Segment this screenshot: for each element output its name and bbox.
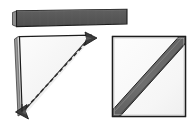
- triangle-face: [20, 35, 92, 113]
- strip-left-edge: [13, 11, 17, 27]
- origami-instruction-diagram: [0, 0, 196, 132]
- strip-body: [17, 9, 128, 26]
- diagram-canvas: [0, 0, 196, 132]
- panel-folded-triangle: [15, 32, 98, 119]
- arrow-top-right: [85, 32, 98, 46]
- panel-square-with-diagonal: [113, 37, 187, 118]
- panel-folded-strip: [13, 9, 128, 26]
